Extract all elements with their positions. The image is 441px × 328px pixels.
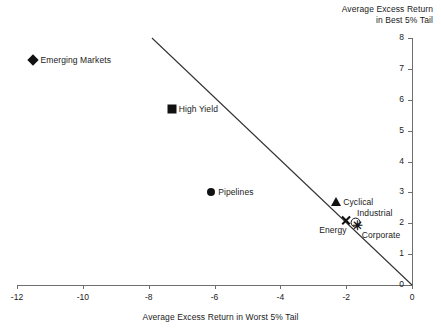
data-point-marker-circle[interactable]	[207, 188, 215, 196]
x-tick-label: -6	[200, 292, 230, 302]
scatter-chart: Average Excess Return in Best 5% Tail -1…	[0, 0, 441, 328]
y-tick-mark	[408, 192, 412, 193]
y-tick-label: 8	[390, 32, 404, 42]
x-tick-label: -8	[134, 292, 164, 302]
y-axis-line	[412, 38, 413, 286]
y-tick-label: 1	[390, 248, 404, 258]
data-point-label: Emerging Markets	[40, 55, 111, 65]
data-point-marker-square[interactable]	[167, 105, 176, 114]
y-axis-title: Average Excess Return in Best 5% Tail	[342, 4, 433, 26]
x-tick-label: -2	[331, 292, 361, 302]
y-tick-label: 0	[390, 279, 404, 289]
y-tick-mark	[408, 223, 412, 224]
y-tick-label: 5	[390, 125, 404, 135]
y-tick-label: 2	[390, 217, 404, 227]
y-tick-mark	[408, 162, 412, 163]
x-tick-mark	[346, 285, 347, 289]
y-tick-label: 4	[390, 156, 404, 166]
y-tick-mark	[408, 285, 412, 286]
data-point-label: Cyclical	[343, 197, 373, 207]
y-tick-label: 3	[390, 186, 404, 196]
data-point-marker-asterisk[interactable]: ✳	[352, 219, 363, 230]
y-tick-mark	[408, 38, 412, 39]
x-tick-label: 0	[397, 292, 427, 302]
x-tick-label: -10	[68, 292, 98, 302]
y-axis-title-line2: in Best 5% Tail	[342, 15, 433, 26]
y-tick-mark	[408, 100, 412, 101]
x-tick-label: -4	[265, 292, 295, 302]
y-axis-title-line1: Average Excess Return	[342, 4, 433, 15]
y-tick-mark	[408, 254, 412, 255]
x-tick-mark	[83, 285, 84, 289]
data-point-marker-diamond[interactable]	[28, 54, 39, 65]
data-point-label: High Yield	[179, 104, 218, 114]
trend-line-segment	[152, 38, 412, 285]
data-point-label: Energy	[319, 225, 347, 235]
y-tick-label: 6	[390, 94, 404, 104]
data-point-marker-triangle[interactable]	[331, 197, 341, 206]
data-point-label: Corporate	[362, 230, 401, 240]
x-tick-mark	[17, 285, 18, 289]
x-tick-mark	[215, 285, 216, 289]
x-tick-label: -12	[2, 292, 32, 302]
y-tick-mark	[408, 69, 412, 70]
y-tick-label: 7	[390, 63, 404, 73]
y-tick-mark	[408, 131, 412, 132]
x-axis-title: Average Excess Return in Worst 5% Tail	[0, 312, 441, 322]
x-tick-mark	[149, 285, 150, 289]
x-tick-mark	[280, 285, 281, 289]
x-tick-mark	[412, 285, 413, 289]
data-point-label: Pipelines	[218, 187, 253, 197]
trend-line	[0, 0, 441, 328]
